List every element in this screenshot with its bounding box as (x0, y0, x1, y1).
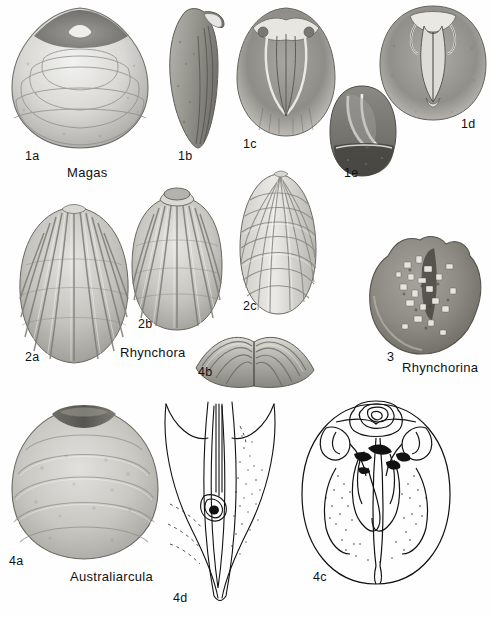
taxon-label-rhynchora: Rhynchora (120, 345, 186, 360)
figure-label-4c: 4c (313, 570, 327, 584)
figure-4a (8, 398, 162, 564)
figure-label-4a: 4a (9, 554, 24, 568)
figure-label-4b: 4b (198, 365, 213, 379)
figure-label-1b: 1b (178, 149, 193, 163)
taxon-label-rhynchorina: Rhynchorina (402, 360, 478, 375)
figure-label-1c: 1c (243, 137, 257, 151)
taxon-label-magas: Magas (67, 165, 108, 180)
figure-4b (188, 326, 320, 392)
figure-2c (236, 172, 320, 318)
figure-label-1a: 1a (25, 149, 40, 163)
figure-label-1e: 1e (344, 166, 359, 180)
illustration-plate: 1a 1b 1c 1d 1e 2a 2b 2c 3 4a 4b 4c 4d Ma… (0, 0, 491, 617)
figure-label-2c: 2c (243, 299, 257, 313)
figure-label-2a: 2a (25, 350, 40, 364)
figure-3 (364, 234, 486, 358)
figure-label-4d: 4d (173, 591, 188, 605)
figure-4c (292, 394, 460, 596)
figure-1a (4, 2, 156, 154)
taxon-label-australiarcula: Australiarcula (70, 569, 153, 584)
figure-2a (16, 203, 132, 367)
figure-label-3: 3 (387, 350, 394, 364)
figure-4d (152, 400, 288, 612)
figure-2b (128, 182, 226, 334)
figure-label-2b: 2b (138, 317, 153, 331)
figure-label-1d: 1d (461, 117, 476, 131)
figure-1b (160, 2, 234, 154)
figure-1c (233, 4, 339, 144)
figure-1e (326, 84, 400, 180)
